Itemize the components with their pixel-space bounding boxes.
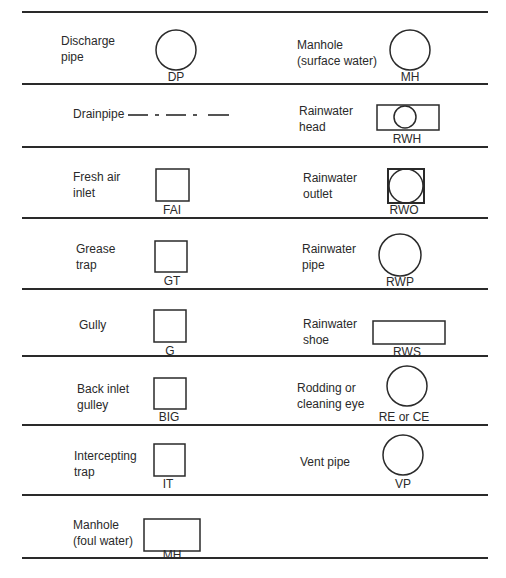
legend-label: Grease trap (76, 241, 115, 273)
discharge-pipe-symbol-icon (156, 30, 196, 70)
legend-label: Discharge pipe (61, 33, 115, 65)
vent-pipe-symbol-icon (383, 435, 423, 475)
rodding-eye-symbol-icon (387, 366, 427, 406)
legend-abbreviation: MH (370, 71, 450, 84)
legend-abbreviation: VP (363, 478, 443, 491)
legend-label: Rainwater outlet (303, 170, 357, 202)
legend-abbreviation: GT (132, 275, 212, 288)
legend-label: Rodding or cleaning eye (297, 380, 364, 412)
legend-abbreviation: RWS (367, 346, 447, 359)
legend-abbreviation: RWO (364, 204, 444, 217)
legend-label: Drainpipe (73, 106, 124, 122)
gully-symbol-icon (154, 310, 186, 342)
legend-abbreviation: RWH (367, 133, 447, 146)
legend-abbreviation: IT (128, 478, 208, 491)
manhole-surface-water-symbol-icon (390, 30, 430, 70)
legend-label: Intercepting trap (74, 448, 137, 480)
legend-label: Rainwater pipe (302, 241, 356, 273)
legend-abbreviation: G (130, 345, 210, 358)
legend-abbreviation: RWP (360, 276, 440, 289)
legend-abbreviation: DP (136, 71, 216, 84)
legend-label: Back inlet gulley (77, 381, 129, 413)
legend-label: Manhole (foul water) (73, 517, 133, 549)
fresh-air-inlet-symbol-icon (156, 169, 189, 201)
legend-label: Gully (79, 317, 106, 333)
rainwater-pipe-symbol-icon (379, 234, 421, 276)
intercepting-trap-symbol-icon (154, 444, 185, 476)
legend-abbreviation: MH (132, 549, 212, 562)
legend-abbreviation: RE or CE (364, 411, 444, 424)
manhole-foul-water-symbol-icon (144, 519, 200, 551)
grease-trap-symbol-icon (155, 241, 187, 272)
rainwater-shoe-symbol-icon (373, 321, 445, 344)
rainwater-head-symbol-icon (377, 105, 439, 130)
legend-label: Rainwater head (299, 103, 353, 135)
legend-label: Fresh air inlet (73, 169, 120, 201)
legend-label: Vent pipe (300, 454, 350, 470)
legend-abbreviation: BIG (129, 411, 209, 424)
legend-abbreviation: FAI (132, 204, 212, 217)
legend-symbols (0, 0, 506, 578)
rainwater-outlet-symbol-icon (388, 169, 424, 203)
legend-label: Rainwater shoe (303, 316, 357, 348)
back-inlet-gulley-symbol-icon (154, 378, 186, 409)
legend-label: Manhole (surface water) (297, 37, 377, 69)
